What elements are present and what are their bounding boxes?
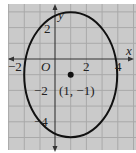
center-point-label: (1, −1) — [59, 83, 95, 98]
center-point-marker — [68, 72, 74, 78]
ellipse-diagram: x y O −2 2 4 2 −2 −4 (1, −1) — [0, 0, 136, 153]
y-axis-label: y — [56, 7, 64, 22]
y-tick-label-neg4: −4 — [34, 114, 48, 129]
x-axis-label: x — [125, 43, 132, 58]
y-tick-label-neg2: −2 — [34, 83, 48, 98]
y-tick-label-2: 2 — [44, 21, 51, 36]
x-tick-label-2: 2 — [83, 59, 90, 74]
graph-canvas: x y O −2 2 4 2 −2 −4 (1, −1) — [0, 0, 136, 153]
x-tick-label-4: 4 — [115, 59, 122, 74]
x-tick-label-neg2: −2 — [8, 59, 22, 74]
origin-label: O — [41, 59, 51, 74]
